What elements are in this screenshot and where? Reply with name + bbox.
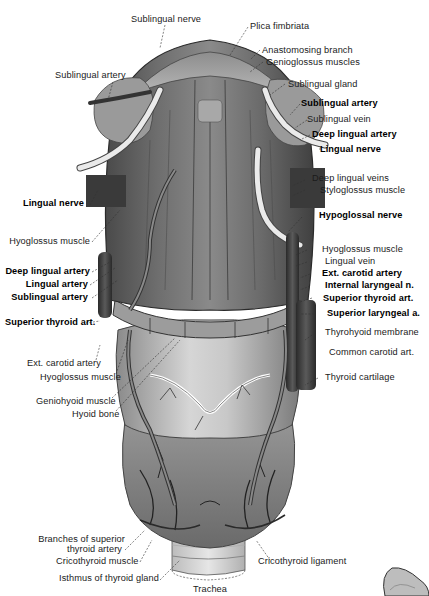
label-plica-fimbriata: Plica fimbriata [250, 21, 309, 32]
label-hypoglossal-nerve: Hypoglossal nerve [319, 210, 402, 221]
label-cricothyroid-muscle: Cricothyroid muscle [56, 556, 139, 567]
label-superior-thyroid-art-left: Superior thyroid art. [5, 317, 95, 328]
label-anastomosing-branch: Anastomosing branch [262, 45, 353, 56]
label-hyoglossus-muscle-left: Hyoglossus muscle [0, 236, 90, 247]
label-cricothyroid-ligament: Cricothyroid ligament [258, 556, 346, 567]
label-sublingual-gland: Sublingual gland [288, 79, 358, 90]
label-hyoglossus-muscle-right: Hyoglossus muscle [322, 244, 403, 255]
adjacent-figure-fragment [384, 568, 429, 596]
label-lingual-nerve-right: Lingual nerve [320, 144, 381, 155]
label-superior-thyroid-art-right: Superior thyroid art. [323, 293, 413, 304]
label-geniohyoid-muscle: Geniohyoid muscle [36, 396, 116, 407]
label-genioglossus-muscles: Genioglossus muscles [266, 57, 360, 68]
anatomy-figure: Sublingual nerve Plica fimbriata Anastom… [0, 0, 429, 596]
label-trachea: Trachea [180, 584, 240, 595]
label-superior-laryngeal-a: Superior laryngeal a. [327, 308, 420, 319]
label-sublingual-artery-left: Sublingual artery [0, 292, 88, 303]
label-lingual-nerve-left: Lingual nerve [0, 198, 84, 209]
label-internal-laryngeal-n: Internal laryngeal n. [325, 280, 414, 291]
label-lingual-artery: Lingual artery [0, 279, 88, 290]
label-thyrohyoid-membrane: Thyrohyoid membrane [325, 327, 419, 338]
label-styloglossus-muscle: Styloglossus muscle [320, 185, 405, 196]
label-hyoid-bone: Hyoid bone [72, 409, 119, 420]
label-sublingual-artery-top-left: Sublingual artery [55, 70, 126, 81]
label-ext-carotid-artery-right: Ext. carotid artery [322, 268, 402, 279]
label-thyroid-cartilage: Thyroid cartilage [325, 372, 395, 383]
label-deep-lingual-artery-right: Deep lingual artery [312, 129, 397, 140]
label-deep-lingual-artery-left: Deep lingual artery [0, 266, 90, 277]
label-sublingual-vein: Sublingual vein [307, 114, 371, 125]
label-ext-carotid-artery-left: Ext. carotid artery [27, 358, 101, 369]
label-hyoglossus-muscle-lower: Hyoglossus muscle [40, 372, 121, 383]
label-deep-lingual-veins: Deep lingual veins [312, 173, 389, 184]
label-sublingual-artery-right: Sublingual artery [301, 98, 378, 109]
label-isthmus-thyroid-gland: Isthmus of thyroid gland [59, 573, 159, 584]
label-branches-superior-thyroid-line2: thyroid artery [30, 544, 122, 555]
label-common-carotid-art: Common carotid art. [329, 347, 414, 358]
label-lingual-vein: Lingual vein [325, 256, 375, 267]
label-sublingual-nerve: Sublingual nerve [131, 14, 201, 25]
